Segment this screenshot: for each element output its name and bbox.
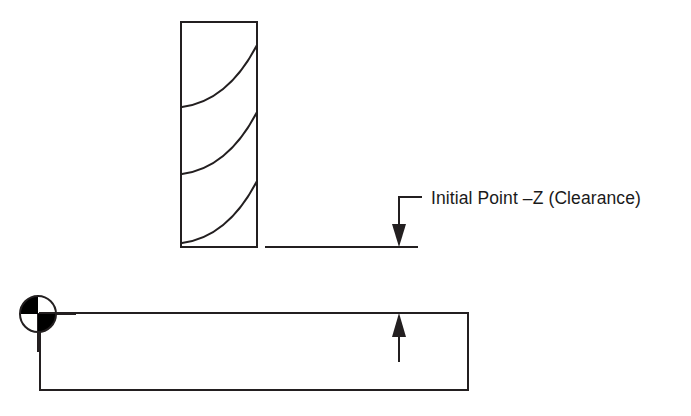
drill-bit-tool [181,22,257,247]
annotation-leader-line [399,197,422,228]
feed-arrow-head [392,313,406,337]
initial-point-label: Initial Point –Z (Clearance) [431,188,641,208]
drill-flute-curve-3 [182,181,257,243]
workpiece-outline [40,313,468,390]
feed-direction-arrow [392,313,406,362]
program-zero-datum-icon [20,296,76,352]
clearance-down-arrow-head [392,224,406,247]
diagram-canvas: Initial Point –Z (Clearance) [0,0,691,416]
technical-diagram: Initial Point –Z (Clearance) [0,0,691,416]
drill-flute-curve-2 [182,112,257,174]
initial-point-annotation: Initial Point –Z (Clearance) [392,188,641,247]
drill-body-outline [181,22,257,247]
drill-flute-curve-1 [182,45,257,107]
